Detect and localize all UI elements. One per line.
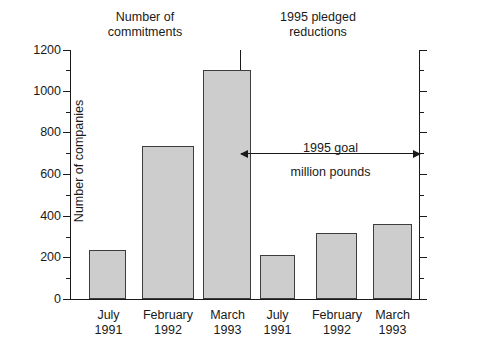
y-tick-left-300 xyxy=(66,237,70,238)
y-tick-right-600 xyxy=(420,174,427,175)
y-tick-right-100 xyxy=(420,278,424,279)
y-tick-left-900 xyxy=(66,112,70,113)
y-tick-right-1100 xyxy=(420,70,424,71)
y-tick-left-600 xyxy=(63,174,70,175)
y-tick-right-900 xyxy=(420,112,424,113)
y-label-left-0: 0 xyxy=(54,293,61,306)
y-tick-left-1100 xyxy=(66,70,70,71)
panel-title-pledged-reductions: 1995 pledged reductions xyxy=(258,10,378,40)
y-tick-left-200 xyxy=(63,257,70,258)
goal-annotation-label: 1995 goal million pounds xyxy=(241,141,420,171)
bar-commitments-march-1993[interactable] xyxy=(203,70,251,299)
bar-reductions-february-1992[interactable] xyxy=(316,233,357,299)
y-tick-right-0 xyxy=(420,299,427,300)
y-tick-right-800 xyxy=(420,132,427,133)
panel-title-commitments: Number of commitments xyxy=(85,10,205,40)
x-label-reductions-march-1993-line1: March xyxy=(375,308,410,322)
y-tick-left-100 xyxy=(66,278,70,279)
bar-chart-figure: Number of commitments 1995 pledged reduc… xyxy=(0,0,489,351)
y-tick-right-400 xyxy=(420,216,427,217)
y-tick-right-500 xyxy=(420,195,424,196)
y-label-left-1000: 1000 xyxy=(33,85,61,98)
y-tick-left-800 xyxy=(63,132,70,133)
y-axis-left-title: Number of companies xyxy=(72,100,86,222)
x-axis-line xyxy=(70,299,420,300)
panel-title-commitments-line1: Number of xyxy=(116,10,174,24)
y-label-left-400: 400 xyxy=(40,210,61,223)
x-label-reductions-july-1991-line1: July xyxy=(266,308,288,322)
y-tick-right-300 xyxy=(420,237,424,238)
y-label-left-1200: 1200 xyxy=(33,44,61,57)
y-tick-left-400 xyxy=(63,216,70,217)
panel-title-pledged-reductions-line2: reductions xyxy=(289,25,347,39)
x-label-commitments-february-1992-line2: 1992 xyxy=(154,323,182,337)
bar-commitments-february-1992[interactable] xyxy=(142,146,194,299)
x-label-reductions-march-1993: March 1993 xyxy=(351,308,434,338)
bar-reductions-july-1991[interactable] xyxy=(260,255,295,299)
y-label-left-800: 800 xyxy=(40,126,61,139)
plot-area: 0 200 400 600 800 1000 1200 0 200 400 60… xyxy=(70,50,420,300)
y-tick-right-200 xyxy=(420,257,427,258)
y-label-left-600: 600 xyxy=(40,168,61,181)
y-tick-left-1000 xyxy=(63,91,70,92)
y-tick-left-0 xyxy=(63,299,70,300)
y-tick-right-1200 xyxy=(420,50,427,51)
x-label-commitments-july-1991-line2: 1991 xyxy=(95,323,123,337)
bar-reductions-march-1993[interactable] xyxy=(373,224,412,299)
y-tick-left-700 xyxy=(66,153,70,154)
x-label-reductions-march-1993-line2: 1993 xyxy=(379,323,407,337)
goal-annotation-line1: 1995 goal xyxy=(303,141,358,155)
goal-annotation-line2: million pounds xyxy=(241,165,420,180)
x-label-reductions-july-1991-line2: 1991 xyxy=(264,323,292,337)
x-label-reductions-february-1992-line2: 1992 xyxy=(323,323,351,337)
y-tick-left-500 xyxy=(66,195,70,196)
y-label-left-200: 200 xyxy=(40,251,61,264)
panel-title-commitments-line2: commitments xyxy=(108,25,182,39)
bar-commitments-july-1991[interactable] xyxy=(89,250,126,299)
y-tick-left-1200 xyxy=(63,50,70,51)
y-tick-right-1000 xyxy=(420,91,427,92)
x-label-commitments-july-1991-line1: July xyxy=(97,308,119,322)
panel-title-pledged-reductions-line1: 1995 pledged xyxy=(280,10,356,24)
